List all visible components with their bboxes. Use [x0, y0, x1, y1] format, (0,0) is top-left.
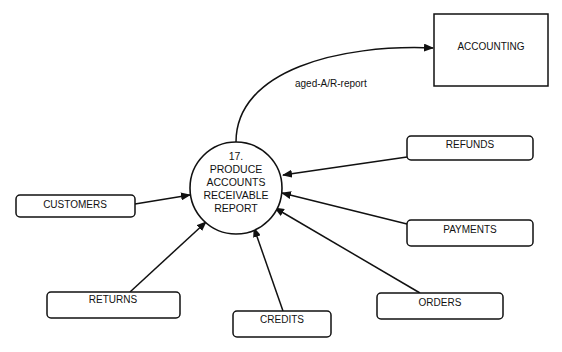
- store-orders[interactable]: ORDERS: [377, 293, 503, 319]
- store-refunds[interactable]: REFUNDS: [407, 136, 533, 160]
- store-returns[interactable]: RETURNS: [47, 292, 180, 318]
- store-customers-label: CUSTOMERS: [43, 199, 107, 210]
- store-credits[interactable]: CREDITS: [233, 311, 331, 337]
- process-label-line-2: ACCOUNTS: [207, 176, 266, 188]
- store-orders-label: ORDERS: [419, 297, 462, 308]
- store-refunds-label: REFUNDS: [446, 139, 495, 150]
- entity-accounting[interactable]: ACCOUNTING: [434, 14, 548, 86]
- entity-accounting-label: ACCOUNTING: [457, 41, 524, 52]
- flow-label-aged-ar-report: aged-A/R-report: [295, 78, 367, 89]
- store-payments[interactable]: PAYMENTS: [407, 220, 533, 246]
- flow-arrow-orders: [275, 208, 420, 293]
- flow-arrow-credits: [254, 228, 283, 311]
- data-flow-diagram: aged-A/R-report 17. PRODUCE ACCOUNTS REC…: [0, 0, 562, 352]
- process-label-line-4: REPORT: [214, 202, 258, 214]
- flow-arrow-customers: [135, 195, 190, 204]
- store-payments-label: PAYMENTS: [443, 224, 497, 235]
- process-label-line-1: PRODUCE: [210, 163, 263, 175]
- process-number: 17.: [229, 150, 244, 162]
- flow-arrow-aged-ar-report: [236, 48, 433, 142]
- flow-arrow-payments: [282, 193, 407, 224]
- store-customers[interactable]: CUSTOMERS: [16, 195, 135, 217]
- process-label-line-3: RECEIVABLE: [203, 189, 268, 201]
- flow-arrow-returns: [130, 222, 206, 292]
- store-credits-label: CREDITS: [260, 314, 304, 325]
- store-returns-label: RETURNS: [89, 294, 138, 305]
- flow-aged-ar-report: aged-A/R-report: [236, 48, 433, 142]
- flow-arrow-refunds: [283, 157, 407, 175]
- process-17[interactable]: 17. PRODUCE ACCOUNTS RECEIVABLE REPORT: [190, 142, 282, 234]
